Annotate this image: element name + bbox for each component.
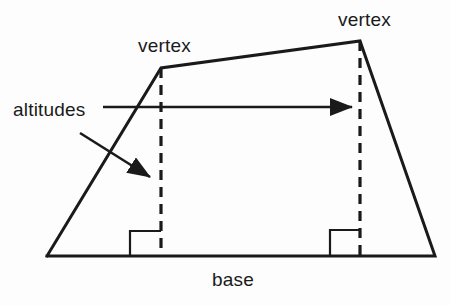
- right-right-angle-marker: [330, 230, 360, 256]
- label-altitudes: altitudes: [13, 100, 86, 119]
- geometry-figure: [0, 0, 450, 305]
- trapezoid-altitudes-diagram: vertex vertex altitudes base: [0, 0, 450, 305]
- label-vertex-left: vertex: [138, 36, 191, 55]
- left-right-angle-marker: [130, 231, 161, 256]
- label-vertex-right: vertex: [338, 10, 391, 29]
- altitudes-diagonal-arrow: [80, 133, 150, 177]
- label-base: base: [212, 270, 254, 289]
